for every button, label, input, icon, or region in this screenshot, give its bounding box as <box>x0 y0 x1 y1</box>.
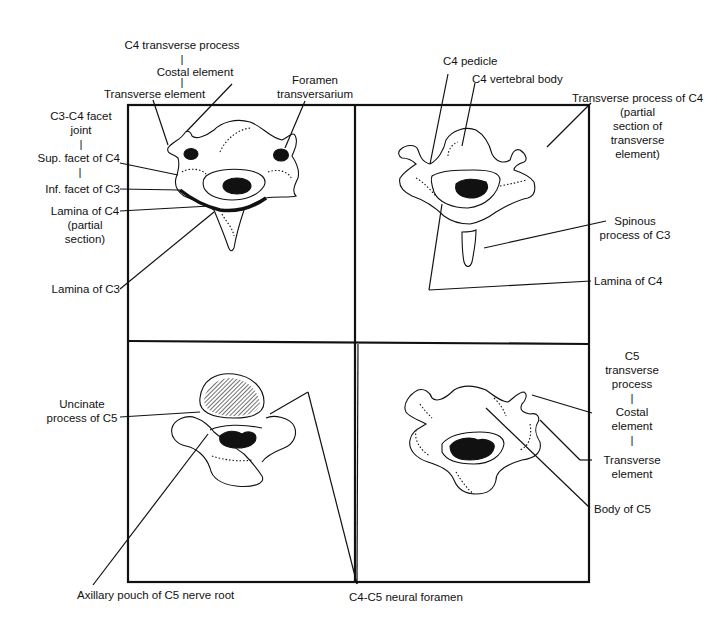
label-line: Lamina of C4 <box>40 204 130 218</box>
label-lamina-c4-right: Lamina of C4 <box>594 274 662 288</box>
label-line: (partial <box>560 105 715 119</box>
label-transverse-process-c4: Transverse process of C4(partialsection … <box>560 91 715 161</box>
label-uncinate-process-c5: Uncinateprocess of C5 <box>40 397 124 425</box>
label-line: process <box>592 377 672 391</box>
label-inf-facet-c3: Inf. facet of C3 <box>10 182 120 196</box>
label-line: Transverse <box>592 453 672 467</box>
label-sup-facet-c4: Sup. facet of C4 <box>10 151 120 165</box>
label-line: (partial <box>40 218 130 232</box>
label-line: transverse <box>592 363 672 377</box>
label-line: element) <box>560 147 715 161</box>
label-spinous-process-c3: Spinousprocess of C3 <box>590 214 680 242</box>
label-c5-costal-element: Costalelement| <box>592 405 672 447</box>
label-c4-c5-neural-foramen: C4-C5 neural foramen <box>349 590 463 604</box>
label-transverse-element: Transverse element <box>104 87 205 101</box>
label-line: Transverse process of C4 <box>560 91 715 105</box>
label-line: section) <box>40 232 130 246</box>
label-separator: | <box>112 52 252 66</box>
vertebra-bottom-left <box>172 374 296 487</box>
label-line: transversarium <box>275 87 355 101</box>
label-line: Costal <box>592 405 672 419</box>
label-line: element <box>592 467 672 481</box>
label-c4-transverse-process: C4 transverse process <box>112 38 252 52</box>
label-line: Spinous <box>590 214 680 228</box>
label-line: C5 <box>592 349 672 363</box>
label-c4-vertebral-body: C4 vertebral body <box>472 72 563 86</box>
label-line: joint <box>40 123 122 137</box>
label-line: Foramen <box>275 73 355 87</box>
label-c5-transverse-element: Transverseelement <box>592 453 672 481</box>
label-c4-pedicle: C4 pedicle <box>443 54 497 68</box>
label-c5-transverse-process: C5transverseprocess| <box>592 349 672 405</box>
label-lamina-c3: Lamina of C3 <box>10 282 120 296</box>
label-line: section of <box>560 119 715 133</box>
label-line: element <box>592 419 672 433</box>
vertebra-top-right <box>399 128 535 266</box>
label-line: | <box>40 137 122 151</box>
label-line: | <box>592 433 672 447</box>
label-axillary-pouch: Axillary pouch of C5 nerve root <box>77 588 234 602</box>
label-line: C3-C4 facet <box>40 109 122 123</box>
label-line: Uncinate <box>40 397 124 411</box>
label-c3-c4-facet-joint: C3-C4 facetjoint| <box>40 109 122 151</box>
label-line: | <box>592 391 672 405</box>
label-body-c5: Body of C5 <box>594 502 651 516</box>
label-line: transverse <box>560 133 715 147</box>
label-foramen-transversarium: Foramentransversarium <box>275 73 355 101</box>
label-lamina-c4-partial: Lamina of C4(partialsection) <box>40 204 130 246</box>
vertebra-top-left <box>168 120 299 250</box>
label-separator: | <box>30 165 130 179</box>
label-line: process of C3 <box>590 228 680 242</box>
label-line: process of C5 <box>40 411 124 425</box>
